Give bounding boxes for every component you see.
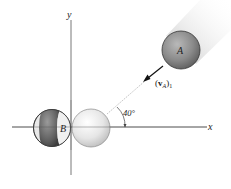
ball-a: A: [162, 31, 200, 69]
velocity-arrow-shaft: [148, 66, 163, 78]
velocity-subscript-outer: 1: [169, 83, 172, 89]
ball-b: B: [34, 108, 73, 148]
angle-label: 40°: [123, 108, 136, 118]
x-axis-label: x: [207, 121, 213, 132]
velocity-arrowhead: [143, 75, 151, 83]
ball-a-label: A: [176, 45, 184, 56]
velocity-label: (vA)1: [155, 78, 172, 89]
ball-a-at-impact: [72, 109, 110, 147]
ball-b-label: B: [60, 123, 66, 134]
collision-diagram: x y 40° (vA)1 A B: [0, 0, 231, 189]
y-axis-label: y: [66, 9, 72, 20]
